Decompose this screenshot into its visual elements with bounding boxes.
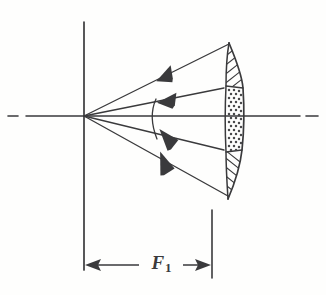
focal-distance-label: F1 — [139, 246, 183, 278]
ray-outer-lower-line — [84, 116, 228, 196]
ray-inner-upper-arrowhead — [156, 93, 180, 112]
ray-outer-lower — [84, 116, 228, 196]
dish-stippled-center — [228, 89, 243, 152]
figure-container: F1 — [0, 0, 326, 295]
focal-distance-subscript: 1 — [165, 261, 172, 274]
ray-inner-lower-line — [84, 116, 224, 150]
ray-inner-lower — [84, 116, 224, 153]
ray-outer-upper-arrowhead — [153, 65, 178, 88]
dish-upper-zone-boundary — [226, 86, 243, 88]
ray-outer-upper — [84, 44, 229, 116]
ray-inner-upper — [84, 88, 224, 116]
parabolic-dish — [216, 40, 248, 210]
dish-lower-zone-boundary — [226, 150, 242, 152]
ray-outer-upper-line — [84, 44, 229, 116]
ray-inner-upper-line — [84, 88, 224, 116]
ray-inner-lower-arrowhead — [155, 129, 180, 152]
focal-distance-symbol: F — [151, 253, 164, 272]
ray-bundle — [84, 44, 229, 196]
